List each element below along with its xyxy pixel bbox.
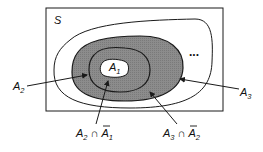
svg-text:A3∩A2: A3∩A2 (162, 127, 201, 142)
ellipsis: ... (189, 45, 199, 59)
label-a2: A2 (12, 80, 25, 95)
label-a3: A3 (239, 86, 252, 101)
nested-sets-diagram: S A1 ... A2 A3 A2∩A1 A3∩A2 (0, 0, 263, 152)
universe-label: S (54, 14, 62, 26)
label-a2-intersect-not-a1: A2∩A1 (75, 126, 113, 142)
label-a3-intersect-not-a2: A3∩A2 (162, 126, 201, 142)
svg-text:A2∩A1: A2∩A1 (75, 127, 113, 142)
